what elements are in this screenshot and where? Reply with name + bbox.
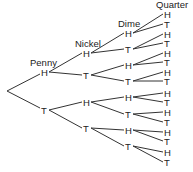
quarter-node-label: T xyxy=(164,157,170,168)
penny-node-label: T xyxy=(41,105,47,116)
quarter-node-label: T xyxy=(164,76,170,87)
nickel-node-label: H xyxy=(83,97,90,108)
nickel-node-label: H xyxy=(83,48,90,59)
tree-branch xyxy=(133,146,163,162)
dime-node-label: T xyxy=(125,76,131,87)
penny-node-label: H xyxy=(41,67,48,78)
tree-branch xyxy=(133,34,163,49)
dime-node-label: H xyxy=(125,28,132,39)
dime-node-label: H xyxy=(125,125,132,136)
tree-branch xyxy=(49,102,82,110)
dime-node-label: H xyxy=(125,60,132,71)
tree-branch xyxy=(133,93,163,97)
nickel-node-label: T xyxy=(83,123,89,134)
tree-branch xyxy=(91,128,124,130)
nickel-node-label: T xyxy=(83,70,89,81)
tree-branch xyxy=(91,102,124,114)
tree-branch xyxy=(133,97,163,102)
dime-node-label: T xyxy=(125,141,131,152)
tree-edges xyxy=(7,14,163,162)
tree-branch xyxy=(133,43,163,49)
dime-node-label: T xyxy=(125,44,131,55)
tree-branch xyxy=(7,74,40,91)
tree-branch xyxy=(133,114,163,122)
header-quarter: Quarter xyxy=(156,0,188,10)
tree-branch xyxy=(91,128,124,146)
tree-branch xyxy=(49,110,82,128)
tree-branch xyxy=(133,112,163,114)
dime-node-label: H xyxy=(125,92,132,103)
tree-branch xyxy=(49,72,82,75)
tree-branch xyxy=(133,72,163,81)
tree-labels: Penny Nickel Dime Quarter HTHTHTHTHTHTHT… xyxy=(30,0,188,168)
dime-node-label: T xyxy=(125,109,131,120)
tree-branch xyxy=(91,75,124,81)
quarter-node-label: T xyxy=(164,136,170,147)
tree-branch xyxy=(133,146,163,152)
tree-branch xyxy=(7,91,40,108)
tree-branch xyxy=(91,97,124,102)
tree-branch xyxy=(91,65,124,75)
coin-tree-diagram: Penny Nickel Dime Quarter HTHTHTHTHTHTHT… xyxy=(0,0,193,172)
